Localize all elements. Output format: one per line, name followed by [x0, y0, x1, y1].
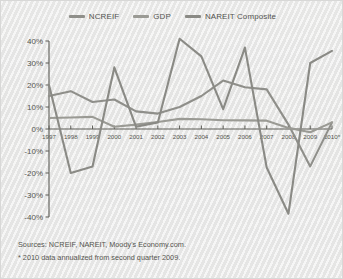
x-axis-tick-label: 2004 — [195, 133, 209, 140]
series-line-ncreif — [49, 81, 332, 167]
x-axis-tick-label: 2002 — [151, 133, 165, 140]
x-axis-tick-label: 2001 — [129, 133, 143, 140]
chart-figure: NCREIFGDPNAREIT Composite 40%30%20%10%0%… — [0, 0, 343, 279]
y-axis-tick-label: -20% — [24, 169, 43, 178]
y-axis-tick-label: 10% — [27, 103, 43, 112]
x-axis-tick-label: 2003 — [173, 133, 187, 140]
footnote-note: * 2010 data annualized from second quart… — [18, 251, 318, 264]
chart-notes: Sources: NCREIF, NAREIT, Moody's Economy… — [18, 238, 318, 264]
x-axis-tick-label: 2000 — [107, 133, 121, 140]
x-axis-tick-label: 2009 — [303, 133, 317, 140]
x-axis-tick-label: 2006 — [238, 133, 252, 140]
y-axis-tick-label: -10% — [24, 147, 43, 156]
x-axis-tick-label: 2005 — [216, 133, 230, 140]
sources-note: Sources: NCREIF, NAREIT, Moody's Economy… — [18, 238, 318, 251]
y-axis-tick-label: -30% — [24, 191, 43, 200]
x-axis-tick-label: 1998 — [64, 133, 78, 140]
y-axis-tick-label: -40% — [24, 213, 43, 222]
x-axis-tick-label: 1997 — [42, 133, 56, 140]
y-axis-tick-label: 40% — [27, 37, 43, 46]
y-axis-tick-label: 20% — [27, 81, 43, 90]
y-axis-tick-label: 30% — [27, 59, 43, 68]
